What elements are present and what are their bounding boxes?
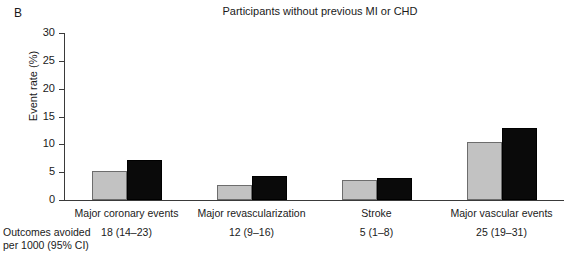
category-label-3: Major vascular events xyxy=(450,207,552,220)
chart-title: Participants without previous MI or CHD xyxy=(150,4,490,18)
y-tick-30: 30 xyxy=(59,33,64,34)
bar-treatment-3 xyxy=(467,142,502,200)
y-tick-20: 20 xyxy=(59,89,64,90)
footnote-value-1: 12 (9–16) xyxy=(229,226,274,239)
bar-treatment-2 xyxy=(342,180,377,200)
bar-treatment-0 xyxy=(92,171,127,200)
footnote-label: Outcomes avoided per 1000 (95% CI) xyxy=(3,226,91,251)
footnote-value-3: 25 (19–31) xyxy=(476,226,527,239)
y-tick-25: 25 xyxy=(59,61,64,62)
bar-treatment-1 xyxy=(217,185,252,200)
y-axis-line xyxy=(64,33,65,200)
y-tick-label-5: 5 xyxy=(49,165,55,178)
figure-panel-b: B Participants without previous MI or CH… xyxy=(0,0,569,253)
category-label-1: Major revascularization xyxy=(198,207,306,220)
y-tick-15: 15 xyxy=(59,117,64,118)
y-tick-10: 10 xyxy=(59,144,64,145)
bar-control-2 xyxy=(377,178,412,200)
footnote-value-0: 18 (14–23) xyxy=(101,226,152,239)
category-label-0: Major coronary events xyxy=(75,207,179,220)
y-tick-0: 0 xyxy=(59,200,64,201)
y-tick-label-20: 20 xyxy=(43,82,55,95)
x-axis-line xyxy=(64,200,564,201)
y-tick-label-30: 30 xyxy=(43,26,55,39)
y-tick-label-0: 0 xyxy=(49,193,55,206)
footnote-value-2: 5 (1–8) xyxy=(360,226,393,239)
category-label-2: Stroke xyxy=(361,207,391,220)
y-tick-label-25: 25 xyxy=(43,54,55,67)
bar-control-0 xyxy=(127,160,162,200)
plot-area: 051015202530 Major coronary eventsMajor … xyxy=(64,33,564,200)
panel-letter: B xyxy=(14,6,22,20)
bar-control-1 xyxy=(252,176,287,200)
y-axis-label: Event rate (%) xyxy=(27,16,39,156)
y-tick-label-10: 10 xyxy=(43,137,55,150)
y-tick-label-15: 15 xyxy=(43,110,55,123)
bar-control-3 xyxy=(502,128,537,200)
footnote-label-line1: Outcomes avoided xyxy=(3,226,91,239)
footnote-label-line2: per 1000 (95% CI) xyxy=(3,239,91,252)
y-tick-5: 5 xyxy=(59,172,64,173)
